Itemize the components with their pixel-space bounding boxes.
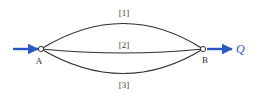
- pipe-label-3: [3]: [119, 80, 130, 90]
- node-label-a: A: [36, 56, 43, 66]
- pipe-label-group: [1] [2] [3]: [119, 8, 130, 90]
- discharge-label-q: Q: [236, 42, 245, 56]
- pipe-network-diagram: [1] [2] [3] A B Q: [0, 0, 254, 94]
- junction-node-a: [38, 46, 43, 51]
- diagram-canvas: [1] [2] [3] A B Q: [0, 0, 254, 94]
- junction-node-b: [200, 46, 205, 51]
- pipe-label-1: [1]: [119, 8, 130, 18]
- pipe-label-2: [2]: [119, 40, 130, 50]
- node-label-b: B: [202, 55, 208, 65]
